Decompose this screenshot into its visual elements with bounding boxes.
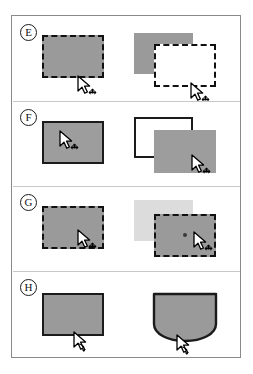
panel-H: H plain rectangle with solid outline, cu… <box>12 271 240 359</box>
E-before-arrow-move-cursor <box>74 74 100 100</box>
E-selected-rectangle <box>42 35 104 78</box>
G-before-arrow-move-cursor <box>74 228 100 254</box>
F-before-arrow-move-cursor <box>56 129 82 155</box>
G-after-arrow-move-cursor <box>190 230 216 256</box>
figure-frame: E <box>11 15 241 358</box>
panel-E: E <box>12 16 240 101</box>
panel-F: F filled rectangle w <box>12 101 240 186</box>
panel-label-H: H <box>20 279 37 296</box>
panel-G: G selected re <box>12 186 240 271</box>
H-before-arrow-drag-cursor <box>70 330 96 356</box>
panel-label-F: F <box>20 109 37 126</box>
F-after-arrow-move-cursor <box>188 153 214 179</box>
panel-label-G: G <box>20 194 37 211</box>
panel-label-E: E <box>20 24 37 41</box>
G-centre-anchor-dot <box>183 233 187 237</box>
figure-root: E <box>0 0 253 374</box>
H-after-arrow-drag-cursor <box>173 333 199 359</box>
